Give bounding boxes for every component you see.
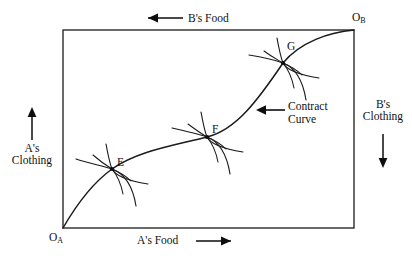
indifference-curves-at-g: [249, 38, 319, 100]
contract-curve-line2: Curve: [288, 113, 316, 125]
up-arrow-icon-left: [28, 107, 37, 140]
box-outline: [63, 30, 354, 228]
curve-a-at-g: [249, 55, 306, 100]
left-arrow-icon-top: [148, 13, 183, 22]
bs-clothing-line1: B's: [376, 98, 390, 110]
point-marker-f: [205, 135, 209, 139]
curve-a-at-f: [172, 128, 230, 174]
origin-b-subscript: B: [360, 16, 365, 25]
axis-label-top-bs-food: B's Food: [188, 12, 229, 24]
origin-label-b: OB: [352, 11, 366, 26]
curve-b2-at-f: [207, 137, 218, 162]
axis-label-left-as-clothing: A'sClothing: [2, 142, 62, 167]
down-arrow-icon-right: [379, 134, 388, 168]
annotation-contract-curve: ContractCurve: [288, 100, 358, 126]
point-marker-g: [281, 61, 285, 65]
curve-b2-at-g: [283, 63, 294, 88]
right-arrow-icon-bottom: [196, 236, 231, 245]
contract-curve: [63, 30, 354, 228]
point-label-g: G: [287, 40, 295, 52]
curve-a-at-e: [76, 159, 136, 206]
point-marker-e: [110, 167, 114, 171]
origin-label-a: OA: [49, 231, 63, 246]
axis-label-bottom-as-food: A's Food: [137, 234, 178, 246]
as-clothing-line2: Clothing: [12, 154, 52, 166]
diagram-canvas: [0, 0, 412, 266]
bs-clothing-line2: Clothing: [363, 110, 403, 122]
indifference-curves-at-e: [76, 144, 148, 206]
origin-a-subscript: A: [57, 236, 63, 245]
point-label-f: F: [212, 123, 218, 135]
contract-curve-line1: Contract: [288, 100, 328, 112]
axis-label-right-bs-clothing: B'sClothing: [355, 98, 411, 123]
edgeworth-box-figure: B's Food A's Food A'sClothing B'sClothin…: [0, 0, 412, 266]
left-arrow-icon-contract-curve: [256, 105, 285, 115]
as-clothing-line1: A's: [25, 142, 40, 154]
point-label-e: E: [117, 156, 124, 168]
curve-b2-at-e: [112, 169, 123, 194]
